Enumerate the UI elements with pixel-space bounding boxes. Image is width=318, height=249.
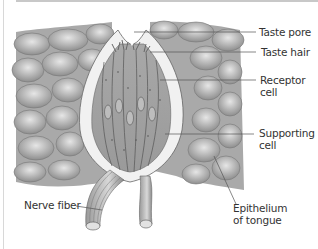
label-epithelium-line1: Epithelium: [233, 203, 287, 214]
label-taste-hair: Taste hair: [261, 47, 310, 58]
label-supporting-cell-line1: Supporting: [259, 128, 315, 139]
label-supporting-cell-line2: cell: [259, 140, 276, 151]
label-receptor-cell-line2: cell: [260, 87, 277, 98]
label-receptor-cell-line1: Receptor: [260, 75, 305, 86]
label-nerve-fiber: Nerve fiber: [24, 200, 81, 211]
label-taste-pore: Taste pore: [259, 27, 311, 38]
label-epithelium-line2: of tongue: [233, 215, 282, 226]
